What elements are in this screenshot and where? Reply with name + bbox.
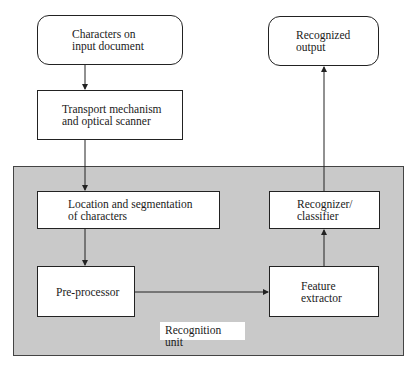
node-text: Recognized (296, 29, 378, 41)
node-text: Recognizer/ (297, 198, 379, 210)
node-text: and optical scanner (62, 115, 182, 127)
node-feature-extractor: Feature extractor (269, 266, 379, 317)
node-location-segmentation: Location and segmentation of characters (37, 191, 220, 229)
node-text: extractor (301, 292, 378, 304)
node-text: Pre-processor (56, 286, 134, 298)
node-pre-processor: Pre-processor (37, 266, 135, 317)
node-text: output (296, 41, 378, 53)
node-text: input document (72, 40, 182, 52)
node-transport-mechanism: Transport mechanism and optical scanner (37, 90, 183, 140)
node-text: of characters (68, 210, 219, 222)
node-text: Transport mechanism (62, 103, 182, 115)
node-characters-on-input-document: Characters on input document (37, 15, 183, 65)
node-text: classifier (297, 210, 379, 222)
recognition-unit-label: Recognition unit (160, 322, 245, 340)
node-text: Feature (301, 280, 378, 292)
node-recognized-output: Recognized output (268, 16, 379, 66)
node-recognizer-classifier: Recognizer/ classifier (269, 191, 380, 229)
node-text: Location and segmentation (68, 198, 219, 210)
node-text: Characters on (72, 28, 182, 40)
